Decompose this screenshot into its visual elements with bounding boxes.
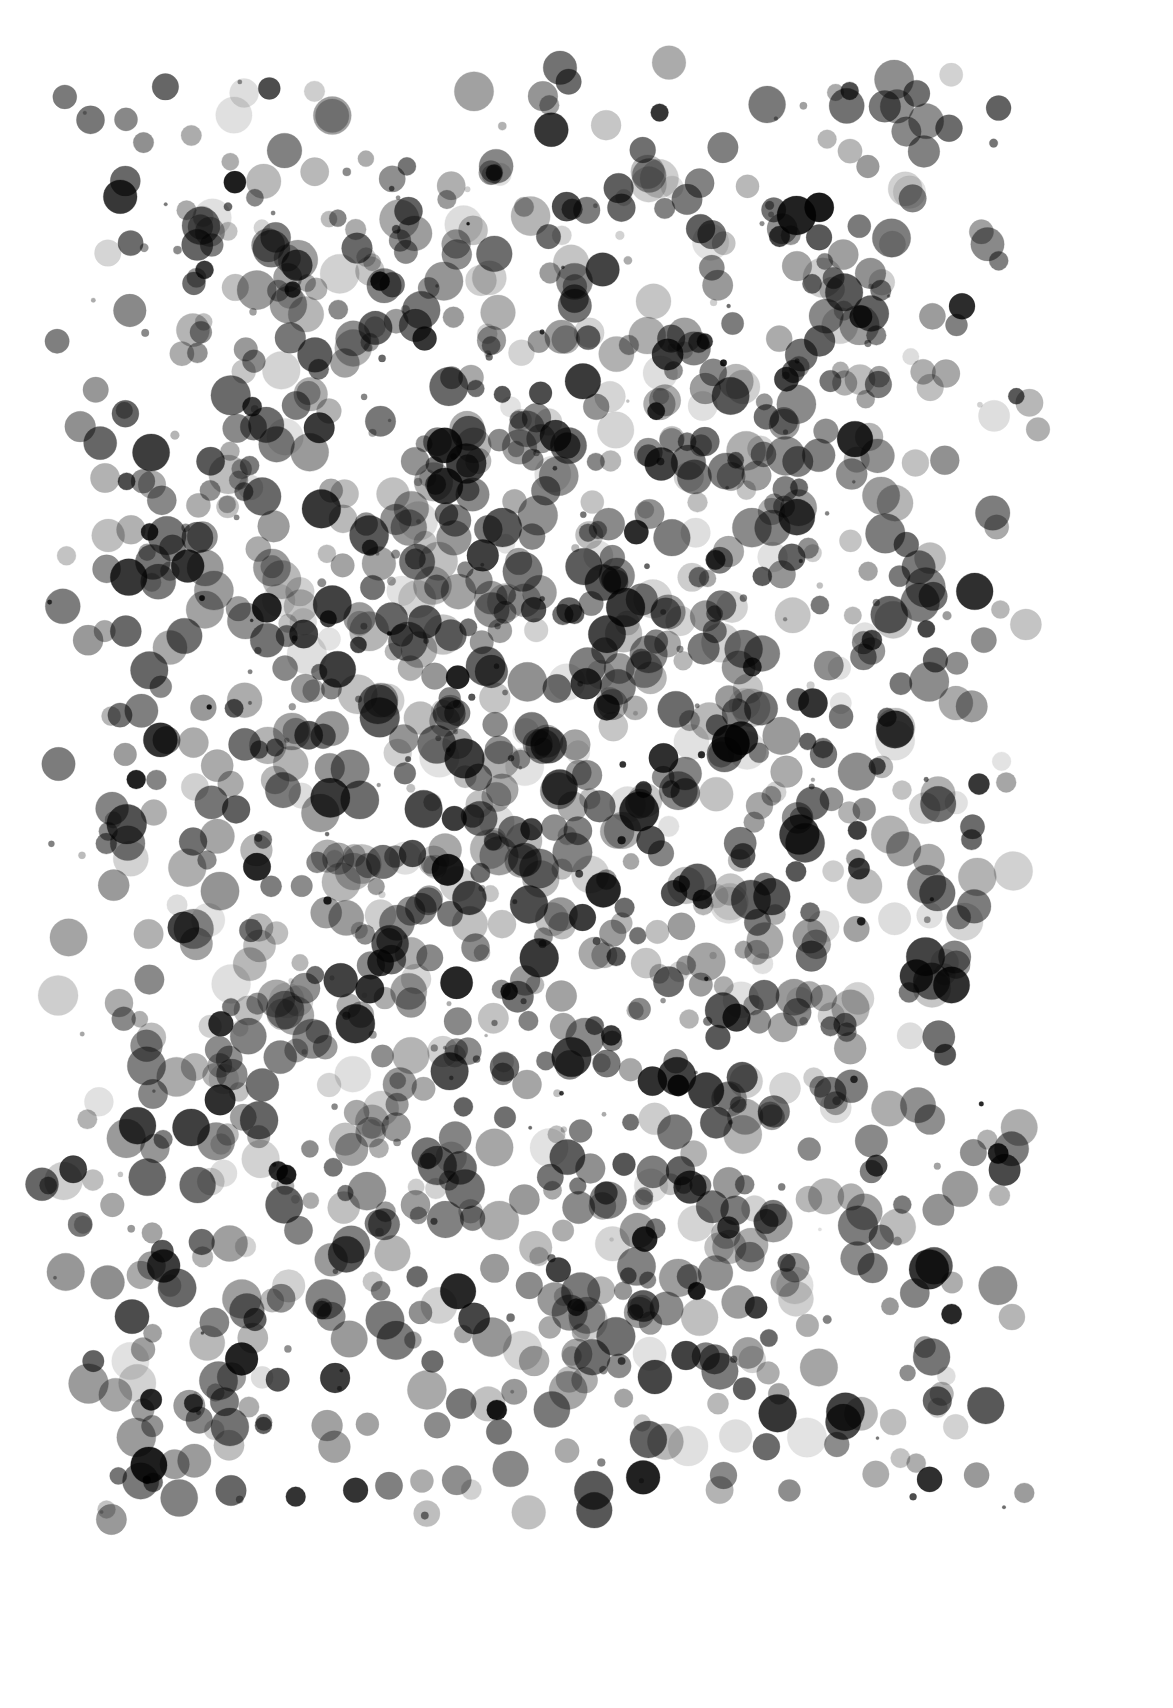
watercolor-dot	[800, 102, 807, 109]
watercolor-dot	[421, 1512, 429, 1520]
watercolor-dot	[361, 394, 367, 400]
watercolor-dot	[308, 359, 328, 379]
watercolor-dot	[633, 1190, 653, 1210]
watercolor-dot	[939, 686, 973, 720]
watercolor-dot	[98, 1501, 116, 1519]
watercolor-dot	[219, 496, 236, 513]
watercolor-dot	[114, 743, 137, 766]
watercolor-dot	[182, 524, 190, 532]
watercolor-dot	[876, 1437, 879, 1440]
watercolor-dot	[903, 348, 920, 365]
watercolor-dot	[343, 168, 351, 176]
watercolor-dot	[47, 1253, 85, 1291]
watercolor-dot	[869, 758, 886, 775]
watercolor-dot	[267, 419, 304, 456]
watercolor-dot	[753, 567, 772, 586]
watercolor-dot	[431, 1045, 438, 1052]
watercolor-dot	[654, 519, 691, 556]
watercolor-dot	[199, 1015, 222, 1038]
watercolor-dot	[498, 122, 506, 130]
watercolor-dot	[707, 1393, 728, 1414]
watercolor-dot	[418, 1146, 457, 1185]
watercolor-dot	[726, 370, 760, 404]
watercolor-dot	[83, 377, 109, 403]
watercolor-dot	[949, 293, 975, 319]
watercolor-dot	[389, 186, 394, 191]
watercolor-dot	[543, 1181, 561, 1199]
watercolor-dot	[454, 1325, 472, 1343]
watercolor-dot	[474, 945, 490, 961]
watercolor-dot	[456, 428, 491, 463]
watercolor-dot	[45, 329, 69, 353]
watercolor-dot	[507, 1314, 515, 1322]
watercolor-dot	[630, 1295, 653, 1318]
watercolor-dot	[91, 1265, 125, 1299]
watercolor-dot	[853, 798, 876, 821]
watercolor-dot	[50, 919, 87, 956]
watercolor-dot	[227, 683, 262, 718]
watercolor-dot	[811, 778, 815, 782]
watercolor-dot	[333, 1269, 338, 1274]
watercolor-dot	[930, 446, 959, 475]
watercolor-dot	[967, 1387, 1004, 1424]
watercolor-dot	[773, 496, 795, 518]
watercolor-dot	[855, 258, 886, 289]
watercolor-dot	[486, 774, 518, 806]
watercolor-dot	[392, 225, 400, 233]
watercolor-dot	[452, 906, 488, 942]
watercolor-dot	[486, 164, 503, 181]
watercolor-dot	[957, 889, 991, 923]
watercolor-dot	[481, 563, 485, 567]
watercolor-dot	[857, 390, 875, 408]
watercolor-dot	[704, 884, 728, 908]
watercolor-dot	[633, 711, 638, 716]
watercolor-dot	[730, 1356, 737, 1363]
watercolor-dot	[467, 380, 484, 397]
watercolor-dot	[234, 338, 258, 362]
watercolor-dot	[924, 917, 930, 923]
watercolor-dot	[918, 620, 935, 637]
watercolor-dot	[999, 1304, 1025, 1330]
watercolor-dot	[783, 446, 814, 477]
watercolor-dot	[439, 687, 461, 709]
watercolor-dot	[736, 175, 759, 198]
watercolor-dot	[664, 361, 683, 380]
watercolor-dot	[869, 366, 890, 387]
watercolor-dot	[871, 816, 909, 854]
watercolor-dot	[212, 1226, 248, 1262]
watercolor-dot	[304, 81, 325, 102]
watercolor-dot	[932, 360, 960, 388]
watercolor-dot	[708, 741, 734, 767]
watercolor-dot	[362, 993, 367, 998]
watercolor-dot	[720, 360, 727, 367]
watercolor-dot	[902, 449, 929, 476]
watercolor-dot	[786, 861, 806, 881]
watercolor-dot	[800, 1349, 838, 1387]
watercolor-dot	[487, 584, 524, 621]
watercolor-dot	[329, 505, 357, 533]
watercolor-dot	[692, 1343, 720, 1371]
watercolor-dot	[569, 904, 596, 931]
watercolor-dot	[407, 784, 416, 793]
watercolor-dot	[871, 1091, 907, 1127]
watercolor-dot	[91, 298, 96, 303]
watercolor-dot	[140, 1389, 162, 1411]
watercolor-dot	[468, 694, 475, 701]
watercolor-dot	[994, 852, 1033, 891]
watercolor-dot	[516, 1272, 543, 1299]
watercolor-dot	[640, 159, 679, 198]
watercolor-dot	[389, 842, 422, 875]
watercolor-dot	[398, 656, 423, 681]
watercolor-dot	[440, 967, 472, 999]
watercolor-dot	[359, 311, 393, 345]
watercolor-dot	[143, 1476, 151, 1484]
watercolor-dot	[289, 703, 296, 710]
watercolor-dot	[48, 841, 54, 847]
watercolor-dot	[917, 1467, 942, 1492]
watercolor-dot	[112, 1007, 136, 1031]
watercolor-dot	[318, 578, 327, 587]
watercolor-dot	[47, 600, 52, 605]
watercolor-dot	[996, 772, 1016, 792]
watercolor-dot	[591, 110, 621, 140]
watercolor-dot	[356, 1413, 379, 1436]
